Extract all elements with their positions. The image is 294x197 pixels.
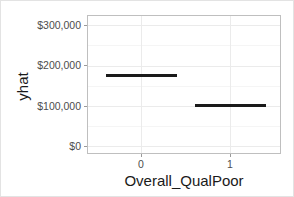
gridline-y-200000 bbox=[88, 66, 280, 67]
y-axis-tick-labels: $300,000 $200,000 $100,000 $0 bbox=[1, 1, 81, 197]
gridline-y-0 bbox=[88, 146, 280, 147]
data-segment-category-0 bbox=[106, 74, 177, 77]
y-tick-label-200000: $200,000 bbox=[37, 60, 81, 71]
y-tick-label-0: $0 bbox=[69, 141, 81, 152]
x-tick-label-1: 1 bbox=[227, 159, 233, 170]
gridline-y-300000 bbox=[88, 25, 280, 26]
x-axis-title: Overall_QualPoor bbox=[87, 173, 281, 188]
y-tick-label-300000: $300,000 bbox=[37, 20, 81, 31]
gridline-y-minor-150000 bbox=[88, 86, 280, 87]
x-tick-mark-1 bbox=[230, 154, 231, 157]
x-tick-label-0: 0 bbox=[138, 159, 144, 170]
plot-panel bbox=[87, 15, 281, 154]
y-tick-label-100000: $100,000 bbox=[37, 101, 81, 112]
gridline-y-minor-50000 bbox=[88, 126, 280, 127]
gridline-y-minor-250000 bbox=[88, 45, 280, 46]
gridline-x-1 bbox=[230, 16, 231, 153]
chart-figure: yhat $300,000 $200,000 $100,000 $0 0 1 O… bbox=[0, 0, 294, 197]
gridline-x-0 bbox=[141, 16, 142, 153]
x-tick-mark-0 bbox=[141, 154, 142, 157]
data-segment-category-1 bbox=[195, 104, 266, 107]
